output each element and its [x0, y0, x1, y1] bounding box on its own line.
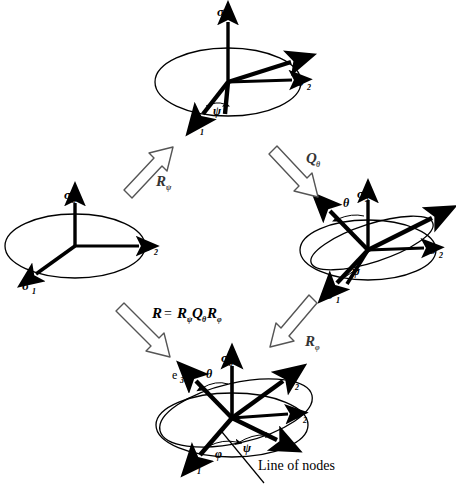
composition-term-3: R — [206, 305, 217, 321]
frame-final-e-2-label: e — [287, 375, 292, 389]
frame-final-e-2-subscript: 2 — [294, 383, 299, 392]
frame-initial-sigma-3-label: σ — [64, 187, 72, 202]
composition-term-3-subscript: φ — [217, 315, 222, 324]
frame-theta-sigma-2-axis — [368, 248, 424, 250]
euler-rotation-diagram: σ 3 σ 2 σ 1 σ 3 σ 2 σ 1 ψ — [0, 0, 456, 493]
composition-term-1: R — [176, 305, 187, 321]
frame-theta-sigma-1-subscript: 1 — [336, 296, 340, 305]
frame-final-sigma-2-subscript: 2 — [302, 416, 307, 425]
arrow-r-phi-operator: R — [304, 333, 315, 349]
frame-final-e-3-subscript: 3 — [179, 376, 184, 385]
composition-lhs: R — [151, 305, 162, 321]
frame-final-theta-label: θ — [206, 367, 213, 381]
frame-initial-sigma-2-subscript: 2 — [153, 248, 158, 257]
arrow-r-phi-subscript: φ — [315, 343, 320, 352]
frame-psi-sigma-1-label: σ — [190, 119, 198, 134]
frame-theta-sigma-2-subscript: 2 — [438, 251, 443, 260]
line-of-nodes-label: Line of nodes — [258, 458, 335, 473]
arrow-r-psi-subscript: ψ — [166, 183, 172, 192]
figure-canvas: σ 3 σ 2 σ 1 σ 3 σ 2 σ 1 ψ — [0, 0, 456, 493]
frame-theta-psi-angle-label: ψ — [352, 264, 361, 278]
frame-initial-sigma-1-subscript: 1 — [32, 287, 36, 296]
frame-final-psi-label: ψ — [243, 441, 252, 455]
frame-initial-sigma-2-label: σ — [144, 239, 152, 254]
frame-theta-sigma-3-subscript: 3 — [364, 195, 369, 204]
frame-psi-sigma-3-label: σ — [217, 4, 225, 19]
frame-theta-sigma-2-label: σ — [429, 242, 437, 257]
frame-psi-sigma-1-subscript: 1 — [200, 128, 204, 137]
frame-final-e-1-label: e — [281, 436, 286, 450]
frame-psi-angle-label: ψ — [213, 104, 222, 118]
frame-psi-rotated-sigma-1-axis — [225, 82, 228, 114]
frame-theta-angle-label: θ — [343, 196, 350, 210]
frame-final-e-1-subscript: 1 — [289, 444, 293, 453]
frame-psi-sigma-3-subscript: 3 — [224, 13, 229, 22]
frame-final-phi-label: φ — [215, 447, 222, 461]
frame-final-sigma-1-subscript: 1 — [197, 467, 201, 476]
frame-theta-sigma-1-label: σ — [326, 287, 334, 302]
frame-final-sigma-3-subscript: 3 — [228, 359, 233, 368]
frame-psi-sigma-2-subscript: 2 — [306, 83, 311, 92]
arrow-r-psi-operator: R — [155, 173, 166, 189]
frame-initial-sigma-1-label: σ — [22, 278, 30, 293]
frame-initial-sigma-3-subscript: 3 — [71, 196, 76, 205]
frame-psi-sigma-2-label: σ — [297, 74, 305, 89]
frame-final-sigma-3-label: σ — [221, 350, 229, 365]
frame-final-sigma-2-label: σ — [293, 407, 301, 422]
frame-final-e-3-label: e — [172, 368, 177, 382]
composition-equals: = — [164, 306, 172, 321]
frame-final-sigma-1-label: σ — [187, 458, 195, 473]
frame-theta-sigma-3-label: σ — [357, 186, 365, 201]
